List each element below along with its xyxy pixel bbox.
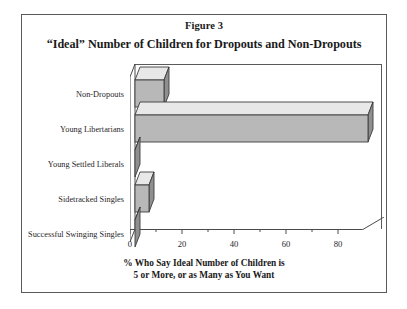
x-tick-label-80: 80 — [334, 239, 343, 249]
category-label-young-settled-liberals: Young Settled Liberals — [48, 161, 124, 169]
category-label-sidetracked-singles: Sidetracked Singles — [58, 196, 124, 204]
figure-frame: Figure 3 “Ideal” Number of Children for … — [21, 14, 387, 293]
category-label-successful-swinging-singles: Successful Swinging Singles — [28, 231, 124, 239]
figure-number-label: Figure 3 — [22, 20, 386, 31]
x-axis-caption: % Who Say Ideal Number of Children is 5 … — [22, 258, 386, 281]
category-label-non-dropouts: Non-Dropouts — [76, 91, 124, 99]
category-label-young-libertarians: Young Libertarians — [60, 126, 124, 134]
figure-title: “Ideal” Number of Children for Dropouts … — [22, 37, 386, 52]
plot-area: Non-Dropouts Young Libertarians Young Se… — [108, 51, 386, 251]
x-tick-label-0: 0 — [128, 239, 132, 249]
x-tick-label-20: 20 — [178, 239, 187, 249]
x-tick-label-60: 60 — [282, 239, 291, 249]
x-axis-caption-line-2: 5 or More, or as Many as You Want — [22, 270, 386, 282]
x-axis-caption-line-1: % Who Say Ideal Number of Children is — [22, 258, 386, 270]
x-axis: 0 20 40 60 80 — [130, 229, 368, 251]
x-tick-label-40: 40 — [230, 239, 239, 249]
